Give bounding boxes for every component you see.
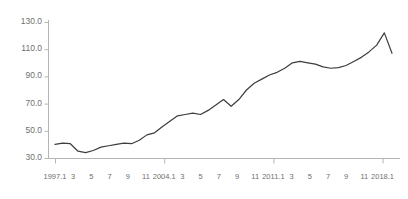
y-axis-tick-label: 30.0 bbox=[25, 152, 42, 162]
x-axis-month-label: 7 bbox=[217, 172, 221, 181]
line-chart: 130.0110.090.070.050.030.0 1997.13579112… bbox=[0, 0, 408, 199]
x-axis-month-label: 11 bbox=[251, 172, 259, 181]
x-axis-month-label: 5 bbox=[198, 172, 202, 181]
x-axis-month-label: 7 bbox=[326, 172, 330, 181]
x-axis-month-label: 7 bbox=[108, 172, 112, 181]
x-axis-month-label: 11 bbox=[142, 172, 150, 181]
chart-plot-area bbox=[0, 0, 408, 199]
y-axis-tick-label: 50.0 bbox=[25, 125, 42, 135]
x-axis-month-label: 5 bbox=[308, 172, 312, 181]
x-axis-month-label: 9 bbox=[126, 172, 130, 181]
y-axis-tick-label: 70.0 bbox=[25, 98, 42, 108]
y-axis-ticks bbox=[45, 23, 49, 159]
x-axis-month-label: 3 bbox=[180, 172, 184, 181]
x-axis-month-label: 9 bbox=[344, 172, 348, 181]
data-series-line bbox=[55, 33, 392, 153]
x-axis-month-label: 3 bbox=[71, 172, 75, 181]
x-axis-year-label: 1997.1 bbox=[44, 172, 67, 181]
x-axis-ticks bbox=[56, 159, 384, 164]
y-axis-tick-label: 130.0 bbox=[21, 16, 42, 26]
x-axis-year-label: 2018.1 bbox=[371, 172, 394, 181]
x-axis-month-label: 5 bbox=[89, 172, 93, 181]
y-axis-tick-label: 90.0 bbox=[25, 70, 42, 80]
x-axis-month-label: 9 bbox=[235, 172, 239, 181]
x-axis-month-label: 3 bbox=[289, 172, 293, 181]
x-axis-year-label: 2011.1 bbox=[262, 172, 284, 181]
x-axis-month-label: 11 bbox=[360, 172, 368, 181]
y-axis-tick-label: 110.0 bbox=[21, 43, 42, 53]
x-axis-year-label: 2004.1 bbox=[153, 172, 176, 181]
